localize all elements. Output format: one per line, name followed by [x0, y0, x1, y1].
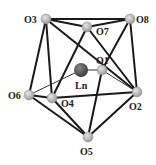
label-o8: O8 [136, 14, 149, 25]
bond-o8-o2 [130, 19, 137, 92]
label-o7: O7 [96, 26, 109, 37]
label-o3: O3 [24, 14, 37, 25]
bond-o3-o6 [29, 19, 46, 95]
label-o1: O1 [96, 55, 109, 66]
atom-o5 [83, 132, 93, 142]
atom-o8 [125, 14, 135, 24]
label-o2: O2 [129, 101, 142, 112]
label-o4: O4 [61, 98, 74, 109]
bond-o7-o2 [87, 27, 137, 92]
thin-bond-o1-o2 [102, 70, 137, 92]
atom-o7 [82, 22, 92, 32]
atom-o6 [24, 90, 34, 100]
label-o5: O5 [80, 146, 93, 157]
coordination-polyhedron-diagram: O3O8O7O1O6O4O2O5Ln [0, 0, 156, 165]
label-ln: Ln [75, 80, 88, 91]
atom-o4 [47, 93, 57, 103]
atom-o3 [41, 14, 51, 24]
bond-lines [29, 19, 137, 137]
atom-ln-center [74, 63, 88, 77]
bond-o6-o5 [29, 95, 88, 137]
atom-o1 [97, 65, 107, 75]
label-o6: O6 [8, 90, 21, 101]
atom-o2 [132, 87, 142, 97]
